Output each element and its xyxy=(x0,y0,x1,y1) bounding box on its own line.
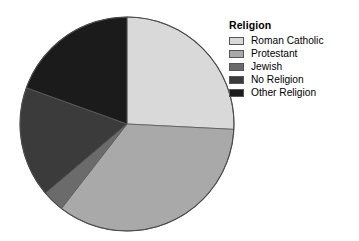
legend-item-no-religion[interactable]: No Religion xyxy=(229,74,355,86)
legend: Religion Roman CatholicProtestantJewishN… xyxy=(229,19,355,100)
legend-item-jewish[interactable]: Jewish xyxy=(229,61,355,73)
pie-chart xyxy=(19,16,235,232)
legend-item-label: Roman Catholic xyxy=(251,35,323,47)
legend-item-label: Jewish xyxy=(251,61,282,73)
pie-slice-roman-catholic[interactable] xyxy=(127,17,234,129)
legend-item-list: Roman CatholicProtestantJewishNo Religio… xyxy=(229,35,355,99)
legend-swatch-icon xyxy=(229,50,244,58)
legend-swatch-icon xyxy=(229,76,244,84)
legend-swatch-icon xyxy=(229,63,244,71)
legend-item-label: Protestant xyxy=(251,48,297,60)
legend-swatch-icon xyxy=(229,37,244,45)
legend-item-roman-catholic[interactable]: Roman Catholic xyxy=(229,35,355,47)
legend-item-label: No Religion xyxy=(251,74,304,86)
legend-item-other-religion[interactable]: Other Religion xyxy=(229,87,355,99)
legend-title: Religion xyxy=(229,19,355,31)
pie-chart-svg xyxy=(19,16,235,232)
chart-page: Religion Roman CatholicProtestantJewishN… xyxy=(0,0,359,241)
pie-slice-group xyxy=(20,17,234,231)
legend-item-protestant[interactable]: Protestant xyxy=(229,48,355,60)
legend-swatch-icon xyxy=(229,89,244,97)
legend-item-label: Other Religion xyxy=(251,87,316,99)
